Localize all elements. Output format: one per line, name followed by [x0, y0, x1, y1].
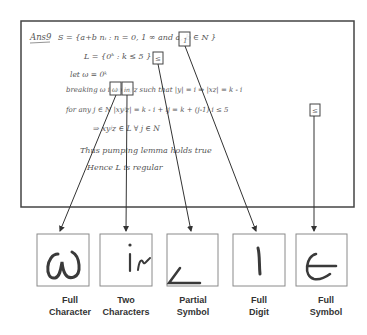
crop-full-digit	[233, 234, 285, 286]
svg-text:≤: ≤	[312, 107, 318, 115]
answer-label: Ans9	[29, 32, 52, 42]
line-let-w: let ω = 0ᵏ	[70, 70, 107, 79]
line-thus: Thus pumping lemma holds true	[80, 146, 212, 155]
label-two-characters-l2: Characters	[102, 307, 149, 317]
label-full-digit-l1: Full	[251, 295, 267, 305]
document-frame	[21, 21, 354, 207]
label-partial-symbol-l1: Partial	[179, 295, 207, 305]
label-full-symbol-l1: Full	[318, 295, 334, 305]
crop-labels: Full Character Two Characters Partial Sy…	[49, 295, 342, 317]
svg-text:ω: ω	[112, 86, 118, 94]
svg-text:≤: ≤	[155, 55, 161, 63]
label-full-digit-l2: Digit	[249, 307, 269, 317]
line-set-s: S = {a+b nᵢ : n = 0, 1 ∞ and a, b ∈ N }	[58, 33, 216, 42]
one-glyph-icon	[258, 248, 260, 274]
line-hence: Hence L is regular	[86, 163, 164, 172]
svg-text:in: in	[124, 86, 130, 93]
svg-text:1: 1	[183, 37, 187, 45]
crop-partial-symbol	[167, 234, 218, 286]
crop-full-symbol	[296, 234, 347, 286]
line-set-l: L = {0ᵏ : k ≤ 5 }	[83, 52, 151, 61]
label-full-character-l2: Character	[49, 307, 92, 317]
line-breaking: breaking ω iₙ to xyⁱz such that |y| = i …	[66, 86, 242, 94]
label-partial-symbol-l2: Symbol	[177, 307, 210, 317]
label-full-character-l1: Full	[62, 295, 78, 305]
line-for-any: for any j ∈ N |xyʲz| = k - i + ij = k + …	[65, 106, 229, 114]
crop-full-character	[37, 234, 89, 286]
crop-thumbnails	[37, 234, 347, 286]
label-two-characters-l1: Two	[117, 295, 135, 305]
crop-two-characters	[100, 234, 152, 286]
label-full-symbol-l2: Symbol	[310, 307, 343, 317]
diagram-canvas: Ans9 S = {a+b nᵢ : n = 0, 1 ∞ and a, b ∈…	[0, 0, 367, 335]
